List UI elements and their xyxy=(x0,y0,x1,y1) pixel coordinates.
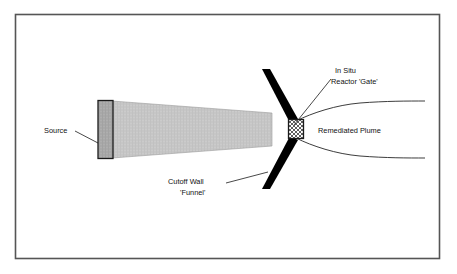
cutoff-wall-label: Cutoff Wall xyxy=(168,177,204,186)
remediated-plume-label: Remediated Plume xyxy=(318,126,381,135)
remediation-diagram-canvas: Source In Situ Reactor 'Gate' Remediated… xyxy=(0,0,457,274)
reactor-gate-label: Reactor 'Gate' xyxy=(331,77,378,86)
source-block xyxy=(98,101,113,159)
diagram-figure: Source In Situ Reactor 'Gate' Remediated… xyxy=(0,0,457,274)
source-label: Source xyxy=(44,126,67,135)
in-situ-label: In Situ xyxy=(335,66,356,75)
funnel-label: 'Funnel' xyxy=(180,188,206,197)
